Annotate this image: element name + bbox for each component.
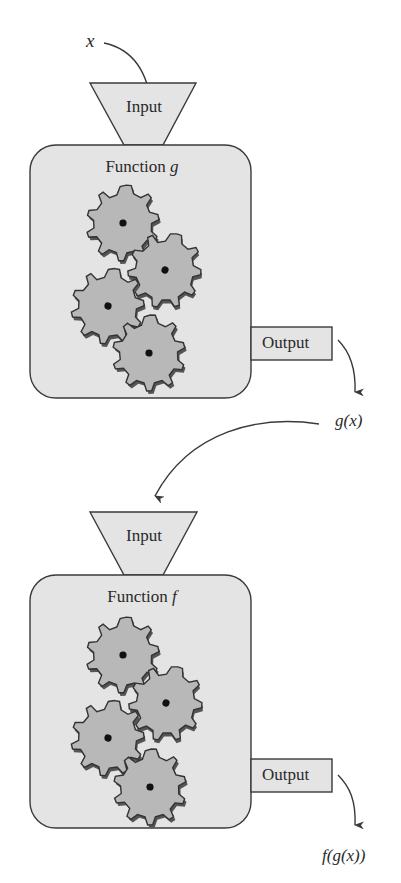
function-title-var: f	[172, 587, 177, 606]
function-title-var: g	[170, 157, 179, 176]
output-label-g: Output	[262, 334, 309, 351]
composition-diagram	[0, 0, 401, 883]
function-title-prefix: Function	[105, 157, 170, 176]
input-label-g: Input	[126, 98, 162, 115]
output-symbol-f: f(g(x))	[322, 847, 365, 864]
output-symbol-g: g(x)	[335, 412, 362, 429]
function-title-prefix: Function	[107, 587, 172, 606]
output-arrow	[338, 340, 355, 392]
output-label-f: Output	[262, 766, 309, 783]
input-label-f: Input	[126, 527, 162, 544]
function-title-f: Function f	[107, 588, 176, 605]
function-title-g: Function g	[105, 158, 178, 175]
output-arrow	[338, 775, 355, 825]
connector-arrow	[155, 422, 319, 496]
input-symbol-g: x	[86, 31, 94, 50]
